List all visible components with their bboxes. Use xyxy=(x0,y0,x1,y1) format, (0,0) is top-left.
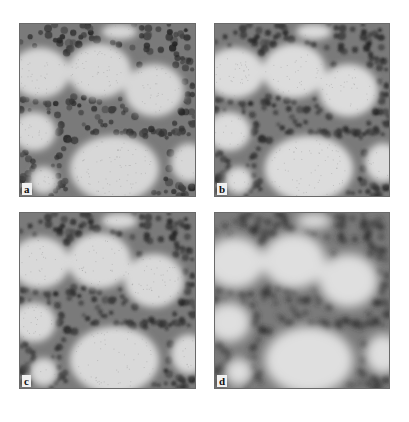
micrograph-image xyxy=(20,213,195,388)
micrograph-image xyxy=(215,24,389,196)
panel-label: d xyxy=(217,375,227,387)
micrograph-panel-c: c xyxy=(19,212,196,389)
panel-label: b xyxy=(217,183,227,195)
micrograph-image xyxy=(20,24,195,196)
micrograph-panel-d: d xyxy=(214,212,390,389)
panel-label: c xyxy=(22,375,31,387)
micrograph-image xyxy=(215,213,389,388)
micrograph-panel-a: a xyxy=(19,23,196,197)
micrograph-panel-b: b xyxy=(214,23,390,197)
panel-label: a xyxy=(22,183,32,195)
